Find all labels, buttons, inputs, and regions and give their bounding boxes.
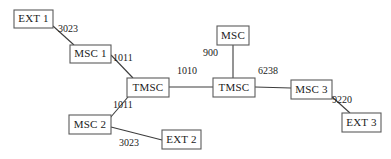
node-msc2: MSC 2 [69,115,111,134]
node-ext1: EXT 1 [14,10,53,28]
node-msc2-label: MSC 2 [74,118,107,130]
node-msctop-label: MSC [221,29,245,41]
diagram-canvas: 3023101110113023101090062389220 EXT 1MSC… [0,0,391,159]
node-tmsc2-label: TMSC [219,81,250,93]
node-msc3: MSC 3 [291,80,332,99]
link-ext1-msc1-label: 3023 [58,23,78,34]
link-msc2-ext2-label: 3023 [119,137,139,148]
link-tmsc2-msc3-label: 6238 [258,65,278,76]
node-tmsc1: TMSC [127,78,169,97]
node-ext2-label: EXT 2 [166,133,196,145]
node-ext3-label: EXT 3 [346,116,377,128]
node-ext3: EXT 3 [342,113,381,132]
node-tmsc2: TMSC [213,78,255,97]
link-tmsc1-tmsc2-label: 1010 [177,65,197,76]
node-tmsc1-label: TMSC [133,81,164,93]
node-msc1-label: MSC 1 [74,47,107,59]
node-msctop: MSC [217,26,249,45]
node-ext1-label: EXT 1 [18,12,48,24]
link-msc3-ext3-label: 9220 [332,94,352,105]
link-msc1-tmsc1-label: 1011 [113,52,133,63]
node-msc3-label: MSC 3 [295,83,328,95]
node-msc1: MSC 1 [70,45,111,63]
link-tmsc2-msc3 [255,87,291,88]
link-tmsc1-msc2-label: 1011 [113,99,133,110]
link-msctop-tmsc2-label: 900 [203,47,218,58]
node-ext2: EXT 2 [162,130,201,149]
network-diagram: 3023101110113023101090062389220 EXT 1MSC… [0,0,391,159]
